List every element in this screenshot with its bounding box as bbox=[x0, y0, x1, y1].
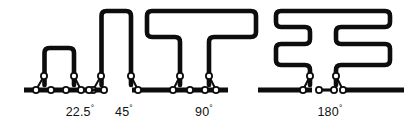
angle-label-value: 90 bbox=[195, 105, 209, 119]
joint-arm-ring bbox=[128, 73, 134, 79]
joint-arm-ring bbox=[307, 73, 313, 79]
joint-arm-ring bbox=[98, 73, 104, 79]
angle-label-value: 22.5 bbox=[66, 105, 91, 119]
joint-base-ring bbox=[340, 87, 346, 93]
degree-symbol: ° bbox=[91, 103, 95, 113]
joint-arm-ring bbox=[71, 73, 77, 79]
joint-base-ring bbox=[135, 87, 141, 93]
diagram-canvas: 22.5°45°90°180° bbox=[0, 0, 417, 129]
dumbbell-left-ring bbox=[86, 87, 92, 93]
dumbbell-left-ring bbox=[316, 87, 322, 93]
joint-base-ring bbox=[78, 87, 84, 93]
joint-base-ring bbox=[213, 87, 219, 93]
label-22-5: 22.5° bbox=[66, 103, 95, 119]
dumbbell-right-ring bbox=[101, 87, 107, 93]
dumbbell-right-ring bbox=[331, 87, 337, 93]
joint-arm-ring bbox=[177, 73, 183, 79]
degree-symbol: ° bbox=[129, 103, 133, 113]
joint-base-ring bbox=[170, 87, 176, 93]
degree-symbol: ° bbox=[339, 103, 343, 113]
dumbbell-right-ring bbox=[63, 87, 69, 93]
joint-arm-ring bbox=[333, 73, 339, 79]
dumbbell-right-ring bbox=[202, 87, 208, 93]
angle-label-value: 180 bbox=[317, 105, 338, 119]
dumbbell-left-ring bbox=[48, 87, 54, 93]
joint-arm-ring bbox=[206, 73, 212, 79]
joint-base-ring bbox=[33, 87, 39, 93]
label-180: 180° bbox=[317, 103, 342, 119]
joint-arm-ring bbox=[41, 73, 47, 79]
dumbbell-left-ring bbox=[187, 87, 193, 93]
angle-label-value: 45 bbox=[115, 105, 129, 119]
degree-symbol: ° bbox=[209, 103, 213, 113]
folded-chain-diagram: 22.5°45°90°180° bbox=[0, 0, 417, 129]
joint-base-ring bbox=[300, 87, 306, 93]
